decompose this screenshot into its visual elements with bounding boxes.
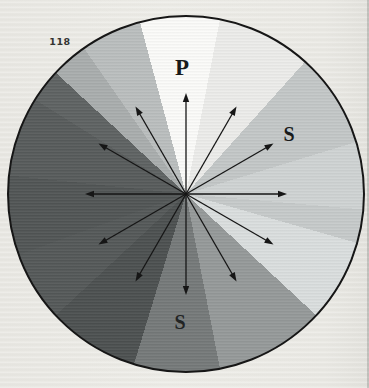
arrow-head — [278, 191, 287, 197]
arrow-shaft — [186, 114, 233, 195]
label-p: P — [175, 56, 189, 79]
arrow-head — [264, 237, 273, 244]
arrow-shaft — [140, 114, 187, 195]
arrow-head — [85, 191, 94, 197]
arrow-shaft — [106, 194, 187, 241]
arrow-head — [183, 286, 189, 295]
arrow-head — [136, 107, 143, 116]
arrow-head — [136, 272, 143, 281]
arrow-head — [99, 144, 108, 151]
arrow-head — [183, 93, 189, 102]
arrow-shaft — [106, 148, 187, 195]
arrow-head — [229, 272, 236, 281]
arrow-head — [264, 144, 273, 151]
arrow-head — [99, 237, 108, 244]
arrow-head — [229, 107, 236, 116]
arrow-shaft — [186, 148, 267, 195]
label-s-bottom: S — [174, 312, 185, 332]
arrow-shaft — [186, 194, 267, 241]
arrow-shaft — [186, 194, 233, 275]
figure-polarization-diagram: 118 P S S — [0, 0, 369, 388]
arrow-shaft — [140, 194, 187, 275]
label-s-right: S — [283, 124, 294, 144]
